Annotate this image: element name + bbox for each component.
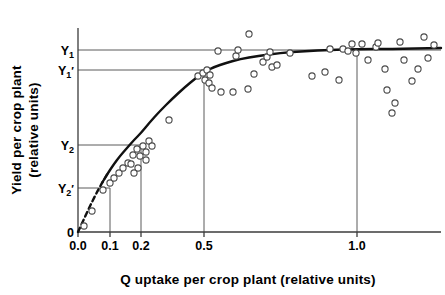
data-point	[336, 77, 342, 83]
data-point	[359, 41, 365, 47]
data-point	[245, 86, 251, 92]
data-point	[137, 153, 143, 159]
data-point	[120, 165, 126, 171]
data-point	[143, 149, 149, 155]
data-point	[235, 47, 241, 53]
y-axis-title-line1: Yield per crop plant	[9, 65, 24, 195]
data-point	[215, 48, 221, 54]
data-point	[143, 157, 149, 163]
data-point	[130, 152, 136, 158]
y-tick-label-Y1-prime: Y1′	[58, 64, 74, 81]
data-point	[274, 62, 280, 68]
x-axis-title-group: Q uptake per crop plant (relative units)	[120, 272, 376, 287]
y-tick-label-0: 0	[67, 226, 74, 240]
data-point	[209, 85, 215, 91]
x-tick-label-0.5: 0.5	[195, 239, 212, 253]
data-point	[134, 146, 140, 152]
data-point	[353, 50, 359, 56]
data-point	[392, 100, 398, 106]
data-point	[384, 87, 390, 93]
data-point	[140, 143, 146, 149]
x-tick-label-0.0: 0.0	[69, 239, 86, 253]
y-tick-label-Y2: Y2	[61, 139, 74, 156]
x-tick-label-0.2: 0.2	[132, 239, 149, 253]
data-point	[149, 143, 155, 149]
y-axis-title-line2: (relative units)	[26, 82, 41, 177]
y-tick-label-Y1: Y1	[61, 44, 74, 61]
data-point	[89, 208, 95, 214]
data-point	[131, 170, 137, 176]
data-point	[322, 69, 328, 75]
data-point	[287, 50, 293, 56]
data-point	[111, 175, 117, 181]
data-point	[246, 31, 252, 37]
data-point	[431, 42, 437, 48]
data-point	[425, 55, 431, 61]
response-curve	[78, 48, 441, 232]
yield-response-figure: Y1Y1′Y2Y2′0 0.00.10.20.51.0 Q uptake per…	[0, 0, 445, 295]
data-point	[100, 187, 106, 193]
data-point	[421, 34, 427, 40]
data-point	[389, 110, 395, 116]
data-point	[375, 40, 381, 46]
data-point	[251, 71, 257, 77]
y-axis-title-group: Yield per crop plant (relative units)	[9, 65, 41, 195]
x-tick-label-0.1: 0.1	[101, 239, 118, 253]
data-point	[233, 53, 239, 59]
chart-canvas: Y1Y1′Y2Y2′0 0.00.10.20.51.0 Q uptake per…	[0, 0, 445, 295]
data-point	[207, 72, 213, 78]
data-point	[81, 223, 87, 229]
data-point	[166, 117, 172, 123]
x-axis-tick-labels: 0.00.10.20.51.0	[69, 239, 365, 253]
data-point	[309, 73, 315, 79]
data-point	[218, 89, 224, 95]
data-point	[128, 161, 134, 167]
data-point	[365, 57, 371, 63]
data-point	[345, 48, 351, 54]
y-tick-label-Y2-prime: Y2′	[58, 182, 74, 199]
data-point	[415, 66, 421, 72]
data-point	[349, 41, 355, 47]
scatter-points	[81, 31, 437, 229]
data-point	[327, 46, 333, 52]
data-point	[401, 57, 407, 63]
data-point	[397, 39, 403, 45]
data-point	[382, 66, 388, 72]
x-tick-label-1.0: 1.0	[348, 239, 365, 253]
data-point	[230, 89, 236, 95]
data-point	[409, 78, 415, 84]
data-point	[267, 49, 273, 55]
axis-lines	[78, 28, 441, 237]
x-axis-title: Q uptake per crop plant (relative units)	[120, 272, 376, 287]
y-axis-tick-labels: Y1Y1′Y2Y2′0	[58, 44, 74, 240]
